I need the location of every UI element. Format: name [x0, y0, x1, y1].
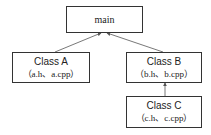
class-c-title: Class C: [146, 100, 181, 112]
class-b-title: Class B: [147, 56, 181, 68]
class-b-files: （b.h、b.cpp）: [135, 68, 193, 80]
main-node: main: [66, 6, 143, 33]
class-c-node: Class C （c.h、c.cpp）: [126, 96, 202, 128]
class-a-node: Class A （a.h、a.cpp）: [12, 52, 90, 83]
class-a-title: Class A: [34, 56, 68, 68]
class-c-files: （c.h、c.cpp）: [136, 112, 193, 124]
edge-a-to-main: [55, 33, 101, 52]
edge-b-to-main: [107, 33, 163, 52]
dependency-diagram: main Class A （a.h、a.cpp） Class B （b.h、b.…: [0, 0, 211, 135]
class-a-files: （a.h、a.cpp）: [23, 68, 80, 80]
main-label: main: [95, 14, 115, 25]
class-b-node: Class B （b.h、b.cpp）: [126, 52, 202, 83]
